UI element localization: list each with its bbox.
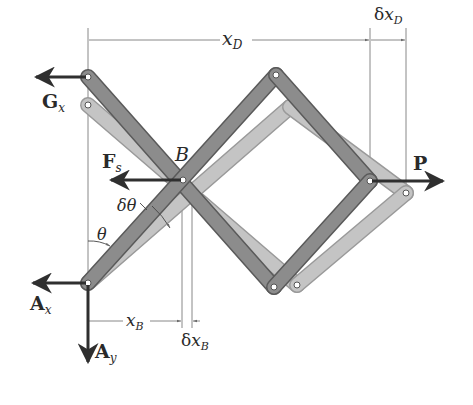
label-dxB: δxB [181,330,209,353]
label-Ax: Ax [29,292,52,317]
label-xB: xB [126,310,144,333]
label-xD: xD [222,27,243,52]
label-theta: θ [97,225,107,244]
label-B: B [174,143,189,165]
label-Gx: Gx [42,90,65,115]
label-P: P [413,152,427,174]
label-dxD: δxD [374,4,403,27]
label-Ay: Ay [94,340,117,365]
scissor-linkage-diagram: Gx Fs B P Ax Ay θ δθ xD δxD xB δxB [0,0,473,405]
label-Fs: Fs [102,150,122,175]
label-dtheta: δθ [117,196,137,215]
